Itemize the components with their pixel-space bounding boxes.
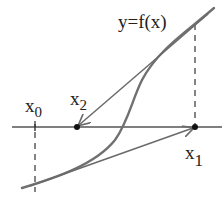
point-x1 [192,124,198,130]
tangent-line-x0-to-x1 [30,128,193,186]
label-x1: x1 [185,142,203,170]
label-x0: x0 [25,95,42,120]
newton-method-diagram: y=f(x) x0 x2 x1 [0,0,224,200]
function-label: y=f(x) [118,11,167,33]
label-x2: x2 [70,88,87,113]
point-x2 [74,124,80,130]
